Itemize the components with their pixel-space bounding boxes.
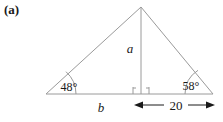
figure-container: (a) a b 20 48° 58° (0, 0, 223, 122)
altitude-label: a (127, 41, 134, 56)
angle-left-label: 48° (61, 80, 78, 94)
angle-right-label: 58° (183, 79, 200, 93)
base-right-label: 20 (170, 98, 183, 113)
dimension-arrowhead-right (206, 102, 215, 109)
triangle-right-side (141, 7, 213, 94)
triangle-diagram: a b 20 48° 58° (0, 0, 223, 122)
base-left-label: b (98, 100, 105, 115)
dimension-arrowhead-left (134, 102, 143, 109)
